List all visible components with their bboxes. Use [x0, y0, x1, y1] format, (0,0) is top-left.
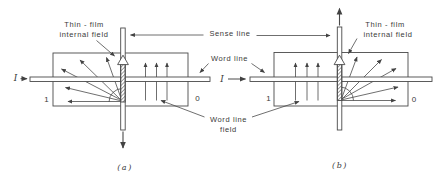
thin-film-leader-b [349, 39, 358, 54]
word-line-field-leader-left [161, 101, 205, 118]
word-line-leader-left [200, 64, 209, 73]
thin-film-leader-a [97, 41, 115, 57]
thin-film-label-a-line1: Thin - film [64, 20, 104, 29]
thin-film-label-b-line2: internal field [364, 30, 413, 39]
sense-line-label: Sense line [209, 29, 250, 38]
word-line-field-leader-right [252, 102, 299, 118]
word-line-leader-right [252, 64, 265, 73]
state-one-label-a: 1 [44, 95, 48, 104]
thin-film-label-b-line1: Thin - film [365, 20, 405, 29]
word-line-field-label-line2: field [220, 125, 237, 134]
state-zero-label-b: 0 [412, 95, 416, 104]
word-line-label: Word line [211, 54, 248, 63]
word-line-bar-a [30, 77, 210, 82]
current-label-a: I [14, 74, 18, 83]
caption-a: (a) [117, 163, 133, 172]
thin-film-memory-diagram: Thin - film internal field Thin - film i… [0, 0, 441, 180]
state-zero-label-a: 0 [195, 94, 199, 103]
current-label-b: I [220, 75, 224, 84]
thin-film-label-a-line2: internal field [60, 30, 109, 39]
state-one-label-b: 1 [266, 94, 270, 103]
word-line-field-label-line1: Word line [210, 115, 247, 124]
caption-b: (b) [332, 161, 348, 170]
